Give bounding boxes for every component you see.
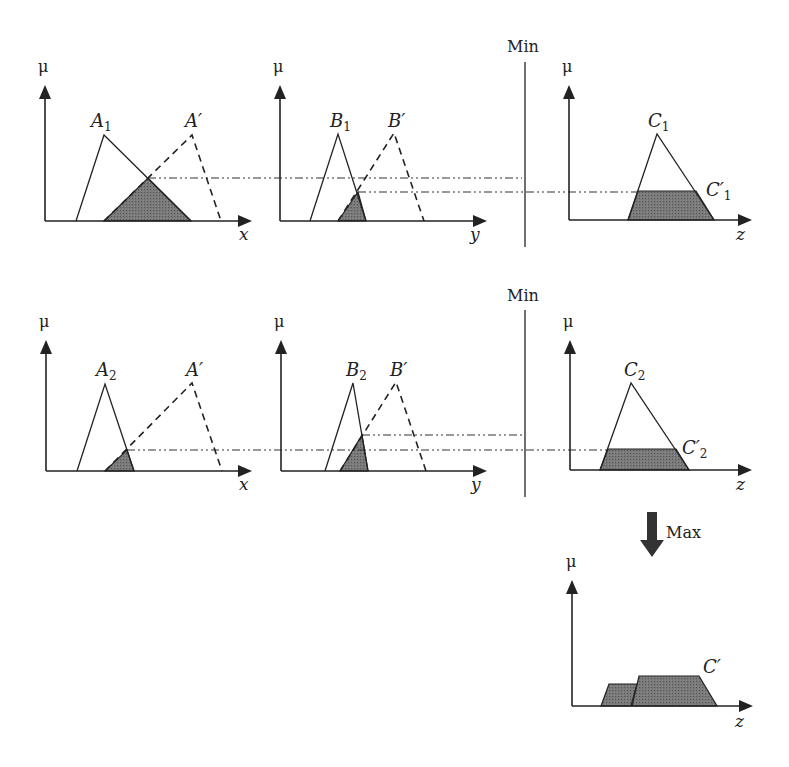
set-label: B2 [345,359,367,383]
set-label: A2 [94,359,117,383]
mu-axis-label: μ [566,552,576,571]
min-label-row1: Min [507,37,539,56]
set-label: A′ [184,359,203,380]
mu-axis-label: μ [274,312,284,331]
shaded-regions [104,178,717,706]
set-label: A′ [183,110,202,131]
y-axis-arrow-icon [564,340,576,354]
operators: Min Min Max [507,37,701,557]
y-axis-arrow-icon [274,85,286,99]
mu-axis-label: μ [563,312,573,331]
shaded-region [104,178,191,221]
x-axis-label: x [239,474,249,494]
membership-functions [76,133,714,471]
diagram-svg: A1A′μxB1B′μyC1C′1μzA2A′μxB2B′μyC2C′2μzC′… [0,0,789,767]
set-label: B1 [329,110,351,134]
y-axis-label: y [469,224,480,244]
set-label: C2 [624,359,645,383]
mu-axis-label: μ [39,312,49,331]
y-axis-arrow-icon [563,85,575,99]
mu-axis-label: μ [38,57,48,76]
shaded-region [105,450,134,471]
y-axis-arrow-icon [566,580,578,594]
set-label: B′ [389,359,407,380]
x-axis-label: x [239,224,249,244]
shaded-region [632,676,717,706]
set-label: A1 [89,110,112,134]
dash-dot-level-lines [127,178,638,450]
set-label: C1 [648,110,669,134]
shaded-region [600,449,689,470]
y-axis-arrow-icon [40,340,52,354]
labels: A1A′μxB1B′μyC1C′1μzA2A′μxB2B′μyC2C′2μzC′… [38,57,746,731]
shaded-region [628,191,714,220]
max-down-arrow-icon [640,512,664,557]
z-axis-label: z [734,711,745,731]
mu-axis-label: μ [562,57,572,76]
z-axis-label: z [735,474,746,494]
set-label: C′1 [706,179,732,203]
shaded-region [601,684,637,706]
max-label: Max [666,523,701,542]
min-label-row2: Min [507,286,539,305]
set-label: B′ [387,110,405,131]
mu-axis-label: μ [273,57,283,76]
set-label: C′ [703,656,721,677]
fuzzy-inference-diagram: A1A′μxB1B′μyC1C′1μzA2A′μxB2B′μyC2C′2μzC′… [0,0,789,767]
z-axis-label: z [735,224,746,244]
y-axis-arrow-icon [275,340,287,354]
set-label: C′2 [682,437,708,461]
y-axis-arrow-icon [39,85,51,99]
y-axis-label: y [470,474,481,494]
